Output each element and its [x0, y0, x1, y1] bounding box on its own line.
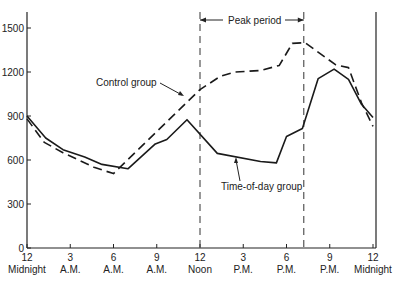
axes: 03006009001200150012Midnight3A.M.6A.M.9A…: [2, 12, 392, 275]
x-tick-sublabel: Midnight: [8, 264, 46, 275]
y-tick-label: 1500: [2, 23, 25, 34]
x-tick-sublabel: P.M.: [320, 264, 339, 275]
time-of-day-group-label: Time-of-day group: [221, 181, 303, 192]
x-tick-label: 6: [284, 252, 290, 263]
peak-period-markers: [200, 12, 304, 248]
load-curve-chart: 03006009001200150012Midnight3A.M.6A.M.9A…: [0, 0, 397, 285]
x-tick-sublabel: Midnight: [354, 264, 392, 275]
peak-period-label: Peak period: [228, 15, 281, 26]
x-tick-sublabel: P.M.: [277, 264, 296, 275]
x-tick-label: 9: [327, 252, 333, 263]
annotations: Peak period Control group Time-of-day gr…: [96, 15, 303, 192]
y-tick-label: 1200: [2, 67, 25, 78]
x-tick-label: 12: [194, 252, 206, 263]
control-group-label: Control group: [96, 77, 157, 88]
x-tick-sublabel: A.M.: [60, 264, 81, 275]
x-tick-label: 3: [67, 252, 73, 263]
x-tick-sublabel: A.M.: [146, 264, 167, 275]
y-tick-label: 900: [7, 111, 24, 122]
y-tick-label: 300: [7, 199, 24, 210]
x-tick-sublabel: P.M.: [234, 264, 253, 275]
x-tick-label: 12: [21, 252, 33, 263]
x-tick-label: 6: [111, 252, 117, 263]
y-tick-label: 600: [7, 155, 24, 166]
x-tick-label: 3: [240, 252, 246, 263]
x-tick-sublabel: Noon: [188, 264, 212, 275]
x-tick-label: 9: [154, 252, 160, 263]
x-tick-label: 12: [367, 252, 379, 263]
x-tick-sublabel: A.M.: [103, 264, 124, 275]
